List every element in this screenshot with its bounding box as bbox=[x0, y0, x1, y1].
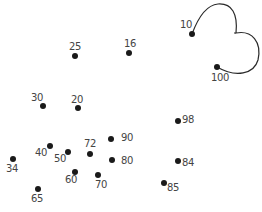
dot-65[interactable] bbox=[35, 186, 41, 192]
dot-label-65: 65 bbox=[31, 194, 43, 204]
dot-34[interactable] bbox=[10, 156, 16, 162]
dot-label-30: 30 bbox=[31, 93, 43, 103]
dot-label-16: 16 bbox=[124, 39, 136, 49]
dot-puzzle-canvas: 1010025163020989072804050346070848565 bbox=[0, 0, 262, 212]
dot-90[interactable] bbox=[108, 136, 114, 142]
dot-label-100: 100 bbox=[211, 73, 229, 83]
dot-98[interactable] bbox=[175, 118, 181, 124]
dot-label-70: 70 bbox=[95, 180, 107, 190]
dot-label-20: 20 bbox=[71, 95, 83, 105]
dot-20[interactable] bbox=[75, 105, 81, 111]
dot-label-90: 90 bbox=[121, 133, 133, 143]
dot-label-60: 60 bbox=[65, 175, 77, 185]
dot-label-85: 85 bbox=[167, 183, 179, 193]
dot-label-34: 34 bbox=[6, 164, 18, 174]
dot-80[interactable] bbox=[109, 157, 115, 163]
dot-16[interactable] bbox=[126, 50, 132, 56]
dot-label-25: 25 bbox=[69, 42, 81, 52]
dot-label-50: 50 bbox=[54, 154, 66, 164]
dot-84[interactable] bbox=[175, 158, 181, 164]
dot-72[interactable] bbox=[87, 151, 93, 157]
dot-25[interactable] bbox=[72, 53, 78, 59]
dot-label-40: 40 bbox=[35, 148, 47, 158]
dot-label-84: 84 bbox=[182, 158, 194, 168]
dot-label-72: 72 bbox=[84, 139, 96, 149]
dot-label-98: 98 bbox=[182, 115, 194, 125]
dot-70[interactable] bbox=[95, 172, 101, 178]
dot-10[interactable] bbox=[189, 31, 195, 37]
dot-30[interactable] bbox=[40, 103, 46, 109]
dot-40[interactable] bbox=[47, 143, 53, 149]
dot-label-10: 10 bbox=[180, 20, 192, 30]
dot-label-80: 80 bbox=[121, 156, 133, 166]
dot-100[interactable] bbox=[214, 64, 220, 70]
